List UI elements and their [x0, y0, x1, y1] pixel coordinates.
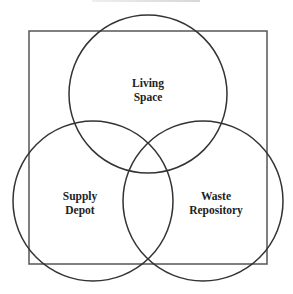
- label-waste-line-1: Waste: [201, 190, 231, 202]
- venn-diagram: Living Space Supply Depot Waste Reposito…: [0, 0, 293, 294]
- label-supply-line-2: Depot: [65, 204, 95, 217]
- label-waste-repository: Waste Repository: [189, 190, 243, 217]
- universe-frame: [29, 31, 267, 264]
- label-waste-line-2: Repository: [189, 204, 243, 217]
- label-supply-line-1: Supply: [63, 190, 98, 203]
- label-living-space: Living Space: [132, 77, 164, 104]
- label-living-line-1: Living: [132, 77, 164, 90]
- label-living-line-2: Space: [134, 91, 163, 104]
- label-supply-depot: Supply Depot: [63, 190, 98, 217]
